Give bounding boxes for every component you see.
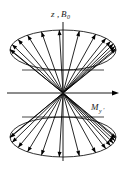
upper-cone-vector-line-7 xyxy=(63,34,96,93)
figure-container: z , B 0 M y ' xyxy=(0,0,128,171)
lower-cone-vector-head-3 xyxy=(28,146,32,151)
horizontal-axis-arrowhead xyxy=(112,90,119,95)
vertical-axis-label-separator: , xyxy=(57,9,59,19)
lower-cone-vector-head-7 xyxy=(91,147,95,153)
lower-cone-vector-head-6 xyxy=(76,150,80,156)
upper-cone-vector-line-12 xyxy=(63,49,116,93)
lower-cone-vector-head-8 xyxy=(101,143,106,148)
vertical-axis-label-b-subscript: 0 xyxy=(67,14,70,20)
lower-cone-vector-line-10 xyxy=(63,93,113,143)
double-cone-diagram: z , B 0 M y ' xyxy=(0,0,128,171)
lower-cone-vector-line-12 xyxy=(63,93,116,138)
lower-cone-vector-line-8 xyxy=(63,93,106,149)
lower-cone-vector-head-5 xyxy=(58,152,62,157)
upper-cone-vector-line-2 xyxy=(18,39,63,93)
upper-cone-vector-head-6 xyxy=(76,31,80,37)
vertical-axis-label-z: z xyxy=(50,9,55,19)
horizontal-axis-label-m: M xyxy=(90,102,99,112)
upper-cone-vector-head-4 xyxy=(41,32,45,38)
lower-cone-vector-line-2 xyxy=(18,93,63,148)
upper-cone-vector-line-10 xyxy=(63,44,113,93)
upper-cone-vector-head-5 xyxy=(58,30,62,35)
horizontal-axis-label-subscript: y xyxy=(98,108,102,114)
lower-cone-vector-head-4 xyxy=(41,150,45,156)
upper-cone-vector-line-8 xyxy=(63,38,106,93)
upper-cone-vector-head-7 xyxy=(91,34,95,40)
horizontal-axis-label-prime: ' xyxy=(103,107,105,113)
upper-cone-vector-head-3 xyxy=(28,35,32,40)
